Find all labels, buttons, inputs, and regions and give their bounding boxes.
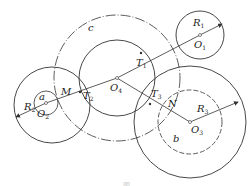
label-t2: T2 bbox=[83, 90, 94, 102]
label-c: c bbox=[88, 22, 94, 33]
label-o1: O1 bbox=[194, 39, 206, 51]
point-t3 bbox=[149, 103, 151, 105]
label-r1: R1 bbox=[192, 17, 204, 29]
label-o4: O4 bbox=[110, 82, 122, 94]
label-o3: O3 bbox=[191, 124, 203, 136]
point-t1 bbox=[140, 52, 142, 54]
line-o4-o1 bbox=[117, 35, 200, 78]
point-o1 bbox=[199, 34, 202, 37]
figure-caption: 图 bbox=[0, 180, 252, 186]
label-a: a bbox=[39, 91, 45, 102]
label-t3: T3 bbox=[151, 88, 162, 100]
label-r3: R3 bbox=[196, 103, 209, 115]
label-t1: T1 bbox=[136, 57, 147, 69]
label-n: N bbox=[167, 98, 178, 109]
point-o4 bbox=[116, 77, 119, 80]
label-m: M bbox=[60, 86, 72, 97]
geometry-diagram: c a b R1 R2 R3 O1 O2 O3 O4 T1 T2 T3 M N bbox=[0, 0, 252, 186]
point-t2 bbox=[79, 91, 81, 93]
label-b: b bbox=[173, 133, 179, 144]
label-o2: O2 bbox=[37, 108, 49, 120]
line-o4-o3 bbox=[117, 78, 190, 122]
